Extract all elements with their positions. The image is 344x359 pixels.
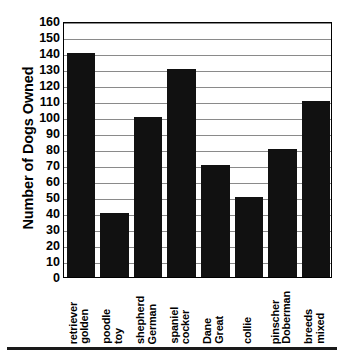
bars-layer (64, 23, 331, 277)
bar[interactable] (67, 53, 95, 277)
bar[interactable] (100, 213, 128, 277)
x-tick-label: Dobermanpinscher (265, 280, 299, 344)
x-tick-word: pinscher (270, 300, 282, 344)
y-tick-label-50: 50 (20, 192, 60, 205)
x-tick-label: collie (231, 280, 265, 344)
x-tick-word: mixed (315, 313, 327, 344)
x-tick-label-words: cockerspaniel (169, 280, 192, 344)
x-tick-word: cocker (181, 310, 193, 344)
y-tick-label-40: 40 (20, 208, 60, 221)
x-tick-word: collie (242, 317, 254, 344)
x-tick-word: spaniel (169, 307, 181, 344)
bar[interactable] (201, 165, 229, 277)
x-tick-word: Dane (203, 318, 215, 344)
x-tick-label-words: collie (242, 280, 254, 344)
y-tick-label-90: 90 (20, 128, 60, 141)
x-tick-word: golden (80, 309, 92, 344)
bar[interactable] (235, 197, 263, 277)
y-axis-tick-labels: 0102030405060708090100110120130140150160 (20, 22, 60, 278)
bottom-rule-divider (7, 347, 337, 350)
plot-area (63, 22, 332, 278)
x-tick-label: mixedbreeds (298, 280, 332, 344)
y-tick-label-140: 140 (20, 48, 60, 61)
x-tick-label: Germanshepherd (130, 280, 164, 344)
y-tick-label-80: 80 (20, 144, 60, 157)
x-tick-word: Great (214, 316, 226, 344)
y-tick-label-70: 70 (20, 160, 60, 173)
y-tick-label-10: 10 (20, 256, 60, 269)
y-tick-label-150: 150 (20, 32, 60, 45)
x-tick-word: shepherd (136, 296, 148, 344)
x-tick-label-words: Dobermanpinscher (270, 280, 293, 344)
x-tick-word: breeds (304, 309, 316, 344)
y-tick-label-130: 130 (20, 64, 60, 77)
x-tick-word: Doberman (282, 291, 294, 344)
x-tick-word: retriever (68, 302, 80, 344)
y-tick-label-60: 60 (20, 176, 60, 189)
y-tick-label-160: 160 (20, 16, 60, 29)
x-tick-word: toy (113, 328, 125, 344)
x-tick-label-words: GreatDane (203, 280, 226, 344)
bar[interactable] (268, 149, 296, 277)
x-tick-word: poodle (102, 309, 114, 344)
y-tick-label-120: 120 (20, 80, 60, 93)
x-tick-label-words: toypoodle (102, 280, 125, 344)
x-tick-label: GreatDane (198, 280, 232, 344)
bar[interactable] (302, 101, 330, 277)
x-tick-label-words: Germanshepherd (136, 280, 159, 344)
y-tick-label-30: 30 (20, 224, 60, 237)
y-tick-label-0: 0 (20, 272, 60, 285)
x-tick-label: toypoodle (97, 280, 131, 344)
x-tick-label: goldenretriever (63, 280, 97, 344)
y-tick-label-100: 100 (20, 112, 60, 125)
x-tick-label-words: mixedbreeds (304, 280, 327, 344)
y-tick-label-110: 110 (20, 96, 60, 109)
bar-chart-figure: Number of Dogs Owned 0102030405060708090… (0, 0, 344, 359)
bar[interactable] (167, 69, 195, 277)
x-tick-word: German (147, 304, 159, 344)
y-tick-label-20: 20 (20, 240, 60, 253)
x-tick-label: cockerspaniel (164, 280, 198, 344)
x-axis-tick-labels: goldenretrievertoypoodleGermanshepherdco… (63, 280, 332, 344)
bar[interactable] (134, 117, 162, 277)
x-tick-label-words: goldenretriever (68, 280, 91, 344)
